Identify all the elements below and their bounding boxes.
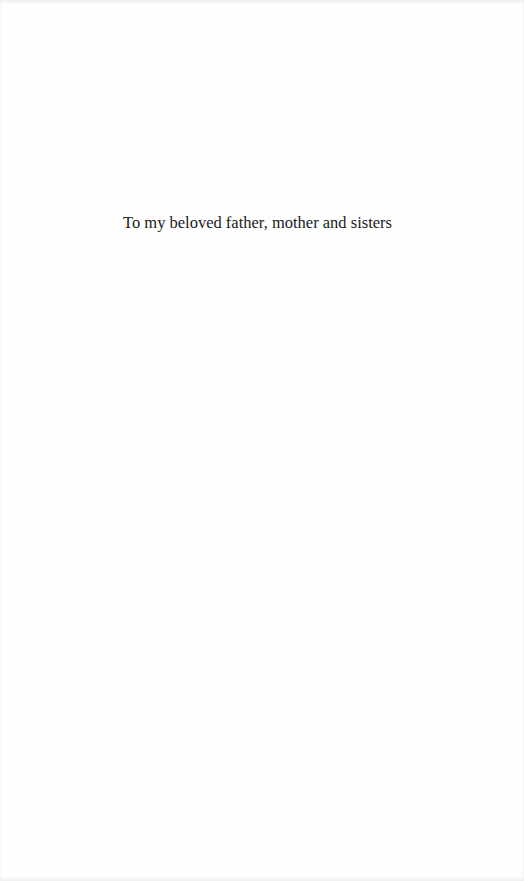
- document-page: To my beloved father, mother and sisters: [0, 0, 524, 881]
- dedication-text: To my beloved father, mother and sisters: [123, 213, 392, 233]
